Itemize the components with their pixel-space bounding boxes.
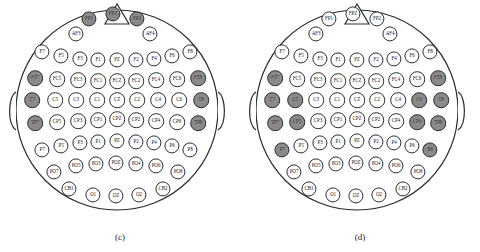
electrode-cp1[interactable]: CP1	[330, 112, 346, 128]
electrode-fc1[interactable]: FC1	[90, 73, 106, 89]
electrode-fc2[interactable]: FC2	[368, 73, 384, 89]
electrode-c6[interactable]: C6	[171, 92, 187, 108]
panel-c: FP1FPZFP2AF3AF4F7F5F3F1FZF2F4F6F8FT7FC5F…	[0, 0, 240, 252]
electrode-cpz[interactable]: CPZ	[349, 111, 365, 127]
electrode-cp5[interactable]: CP5	[289, 114, 305, 130]
electrode-c5[interactable]: C5	[287, 92, 303, 108]
electrode-cp2[interactable]: CP2	[128, 112, 144, 128]
left-ear-marker	[10, 92, 16, 130]
electrode-c1[interactable]: C1	[329, 92, 345, 108]
scalp-outline	[16, 10, 218, 210]
electrode-fcz[interactable]: FCZ	[349, 73, 365, 89]
panel-caption-c: (c)	[0, 232, 240, 242]
electrode-cp6[interactable]: CP6	[169, 114, 185, 130]
head-diagram-d: FP1FPZFP2AF3AF4F7F5F3F1FZF2F4F6F8FT7FC5F…	[240, 0, 480, 232]
electrode-cz[interactable]: CZ	[349, 92, 365, 108]
electrode-cp6[interactable]: CP6	[409, 114, 425, 130]
electrode-fc1[interactable]: FC1	[330, 73, 346, 89]
electrode-c2[interactable]: C2	[369, 92, 385, 108]
electrode-c6[interactable]: C6	[411, 92, 427, 108]
electrode-t8[interactable]: T8	[193, 92, 209, 108]
electrode-fc5[interactable]: FC5	[49, 71, 65, 87]
electrode-cp3[interactable]: CP3	[70, 113, 86, 129]
electrode-t8[interactable]: T8	[433, 92, 449, 108]
electrode-cp2[interactable]: CP2	[368, 112, 384, 128]
electrode-fc3[interactable]: FC3	[70, 72, 86, 88]
electrode-ft7[interactable]: FT7	[267, 70, 283, 86]
electrode-fc6[interactable]: FC6	[409, 71, 425, 87]
electrode-tp8[interactable]: TP8	[190, 115, 206, 131]
electrode-tp8[interactable]: TP8	[430, 115, 446, 131]
electrode-c1[interactable]: C1	[89, 92, 105, 108]
electrode-ft7[interactable]: FT7	[27, 70, 43, 86]
right-ear-marker	[218, 92, 224, 130]
electrode-fc6[interactable]: FC6	[169, 71, 185, 87]
electrode-cpz[interactable]: CPZ	[109, 111, 125, 127]
electrode-fc4[interactable]: FC4	[388, 72, 404, 88]
electrode-cz[interactable]: CZ	[109, 92, 125, 108]
electrode-ft8[interactable]: FT8	[430, 70, 446, 86]
electrode-cp4[interactable]: CP4	[388, 113, 404, 129]
left-ear-marker	[250, 92, 256, 130]
electrode-fc5[interactable]: FC5	[289, 71, 305, 87]
electrode-cp1[interactable]: CP1	[90, 112, 106, 128]
electrode-cp4[interactable]: CP4	[148, 113, 164, 129]
electrode-c4[interactable]: C4	[390, 92, 406, 108]
electrode-c4[interactable]: C4	[150, 92, 166, 108]
right-ear-marker	[458, 92, 464, 130]
scalp-outline	[256, 10, 458, 210]
head-diagram-c: FP1FPZFP2AF3AF4F7F5F3F1FZF2F4F6F8FT7FC5F…	[0, 0, 240, 232]
electrode-tp7[interactable]: TP7	[267, 115, 283, 131]
electrode-t7[interactable]: T7	[264, 92, 280, 108]
electrode-tp7[interactable]: TP7	[27, 115, 43, 131]
electrode-cp3[interactable]: CP3	[310, 113, 326, 129]
electrode-c2[interactable]: C2	[129, 92, 145, 108]
panel-d: FP1FPZFP2AF3AF4F7F5F3F1FZF2F4F6F8FT7FC5F…	[240, 0, 480, 252]
electrode-cp5[interactable]: CP5	[49, 114, 65, 130]
panel-caption-d: (d)	[240, 232, 480, 242]
electrode-ft8[interactable]: FT8	[190, 70, 206, 86]
electrode-c5[interactable]: C5	[47, 92, 63, 108]
electrode-t7[interactable]: T7	[24, 92, 40, 108]
electrode-fcz[interactable]: FCZ	[109, 73, 125, 89]
electrode-c3[interactable]: C3	[68, 92, 84, 108]
electrode-fc2[interactable]: FC2	[128, 73, 144, 89]
electrode-fc3[interactable]: FC3	[310, 72, 326, 88]
electrode-fc4[interactable]: FC4	[148, 72, 164, 88]
eeg-montage-figure: FP1FPZFP2AF3AF4F7F5F3F1FZF2F4F6F8FT7FC5F…	[0, 0, 480, 252]
electrode-c3[interactable]: C3	[308, 92, 324, 108]
